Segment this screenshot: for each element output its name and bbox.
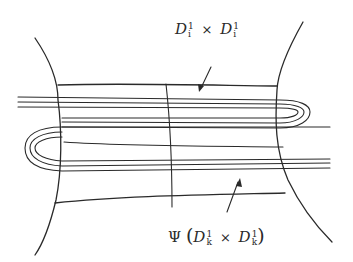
bottom-sub1: k <box>206 238 212 246</box>
upper-folded-strip <box>18 97 310 128</box>
bottom-label-arrow <box>227 182 238 212</box>
left-boundary-arc <box>35 38 61 255</box>
top-label-times: × <box>202 22 213 37</box>
diagram-canvas <box>0 0 353 262</box>
close-paren: ) <box>257 224 264 246</box>
top-label-d2: D <box>220 20 232 38</box>
psi-symbol: Ψ <box>168 228 181 246</box>
band-top-edge <box>58 84 277 86</box>
lower-folded-strip <box>25 127 330 171</box>
top-sub2: i <box>233 30 239 38</box>
bottom-label-d1: D <box>193 228 205 246</box>
band-bottom-edge <box>55 193 285 203</box>
top-sub1: i <box>188 30 194 38</box>
band-middle-line <box>64 142 283 147</box>
bottom-label-d2: D <box>239 228 251 246</box>
top-label: D1i × D1i <box>175 22 239 38</box>
right-boundary-arc <box>276 22 332 242</box>
bottom-label: Ψ (D1k × D1k) <box>168 226 265 246</box>
bottom-label-times: × <box>220 230 231 245</box>
top-label-d1: D <box>175 20 187 38</box>
bottom-label-arrowhead <box>236 178 242 187</box>
